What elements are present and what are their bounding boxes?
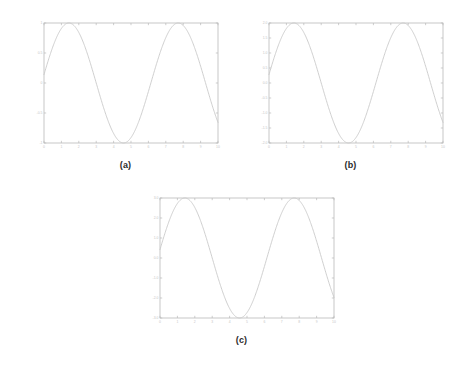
- svg-text:2: 2: [303, 145, 305, 149]
- panel-caption-b: (b): [256, 160, 445, 170]
- svg-text:-1.0: -1.0: [262, 111, 268, 115]
- plot-area-b: 0123456789102.01.51.00.50.0-0.5-1.0-1.5-…: [256, 18, 445, 155]
- svg-text:8: 8: [182, 145, 184, 149]
- svg-text:9: 9: [316, 320, 318, 324]
- svg-text:10: 10: [332, 320, 336, 324]
- plot-panel-c: 0123456789103.02.01.00.0-1.0-2.0-3.0: [147, 193, 336, 330]
- svg-text:6: 6: [147, 145, 149, 149]
- svg-text:0.0: 0.0: [263, 81, 268, 85]
- svg-text:8: 8: [407, 145, 409, 149]
- plot-svg-b: 0123456789102.01.51.00.50.0-0.5-1.0-1.5-…: [256, 18, 445, 155]
- svg-text:7: 7: [165, 145, 167, 149]
- svg-text:1.0: 1.0: [263, 51, 268, 55]
- svg-text:3: 3: [320, 145, 322, 149]
- svg-text:1.5: 1.5: [263, 36, 268, 40]
- svg-text:0.0: 0.0: [154, 256, 159, 260]
- svg-text:5: 5: [130, 145, 132, 149]
- svg-text:0.5: 0.5: [38, 51, 43, 55]
- plot-area-c: 0123456789103.02.01.00.0-1.0-2.0-3.0: [147, 193, 336, 330]
- svg-text:7: 7: [390, 145, 392, 149]
- svg-text:0.5: 0.5: [263, 66, 268, 70]
- svg-text:0: 0: [268, 145, 270, 149]
- svg-text:5: 5: [355, 145, 357, 149]
- svg-text:1: 1: [60, 145, 62, 149]
- svg-text:5: 5: [246, 320, 248, 324]
- svg-text:3: 3: [211, 320, 213, 324]
- svg-text:2.0: 2.0: [263, 21, 268, 25]
- plot-panel-a: 01234567891010.50-0.5-1: [31, 18, 220, 155]
- panel-caption-a: (a): [31, 160, 220, 170]
- svg-text:10: 10: [441, 145, 445, 149]
- svg-text:3: 3: [95, 145, 97, 149]
- svg-text:4: 4: [229, 320, 231, 324]
- svg-text:-1.5: -1.5: [262, 126, 268, 130]
- svg-text:-3.0: -3.0: [153, 316, 159, 320]
- svg-text:9: 9: [200, 145, 202, 149]
- svg-text:3.0: 3.0: [154, 196, 159, 200]
- figure-root: 01234567891010.50-0.5-1 (a) 012345678910…: [0, 0, 462, 372]
- plot-svg-a: 01234567891010.50-0.5-1: [31, 18, 220, 155]
- svg-text:0: 0: [159, 320, 161, 324]
- svg-text:2.0: 2.0: [154, 216, 159, 220]
- plot-panel-b: 0123456789102.01.51.00.50.0-0.5-1.0-1.5-…: [256, 18, 445, 155]
- svg-text:6: 6: [372, 145, 374, 149]
- svg-text:0: 0: [43, 145, 45, 149]
- svg-text:0: 0: [41, 81, 43, 85]
- svg-text:-2.0: -2.0: [153, 296, 159, 300]
- svg-text:4: 4: [113, 145, 115, 149]
- svg-text:6: 6: [263, 320, 265, 324]
- svg-text:8: 8: [298, 320, 300, 324]
- svg-text:-0.5: -0.5: [37, 111, 43, 115]
- svg-text:1: 1: [176, 320, 178, 324]
- svg-text:10: 10: [216, 145, 220, 149]
- svg-text:2: 2: [78, 145, 80, 149]
- svg-text:4: 4: [338, 145, 340, 149]
- svg-text:1: 1: [285, 145, 287, 149]
- svg-text:-1: -1: [39, 141, 42, 145]
- svg-text:-2.0: -2.0: [262, 141, 268, 145]
- svg-text:2: 2: [194, 320, 196, 324]
- svg-text:-0.5: -0.5: [262, 96, 268, 100]
- svg-text:9: 9: [425, 145, 427, 149]
- plot-area-a: 01234567891010.50-0.5-1: [31, 18, 220, 155]
- svg-text:7: 7: [281, 320, 283, 324]
- plot-svg-c: 0123456789103.02.01.00.0-1.0-2.0-3.0: [147, 193, 336, 330]
- svg-text:-1.0: -1.0: [153, 276, 159, 280]
- svg-text:1: 1: [41, 21, 43, 25]
- panel-caption-c: (c): [147, 335, 336, 345]
- svg-text:1.0: 1.0: [154, 236, 159, 240]
